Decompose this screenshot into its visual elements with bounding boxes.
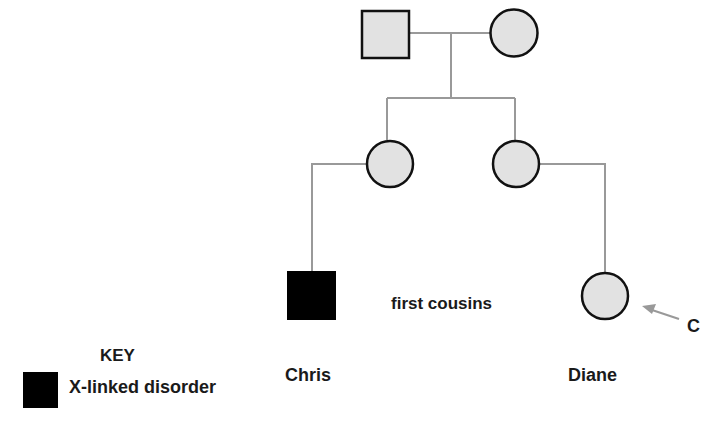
- chris-descent-line: [312, 164, 367, 271]
- mother-of-chris-circle: [367, 141, 413, 187]
- chris-affected-square: [287, 271, 336, 320]
- relationship-label: first cousins: [391, 295, 492, 312]
- legend-title: KEY: [100, 347, 135, 364]
- legend-item-label: X-linked disorder: [69, 378, 216, 396]
- diane-circle: [582, 273, 628, 319]
- grandmother-circle: [491, 10, 538, 57]
- arrow-label: C: [687, 317, 700, 335]
- grandfather-square: [362, 11, 409, 58]
- affected-swatch-icon: [23, 372, 58, 408]
- arrow-icon: [642, 304, 679, 319]
- mother-of-diane-circle: [493, 141, 539, 187]
- chris-name-label: Chris: [285, 366, 331, 384]
- diane-descent-line: [539, 164, 605, 273]
- diane-name-label: Diane: [568, 366, 617, 384]
- pedigree-lines: [312, 33, 605, 273]
